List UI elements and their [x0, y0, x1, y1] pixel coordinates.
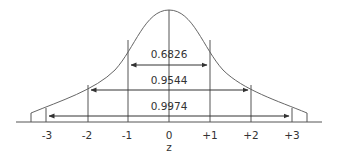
area-label-3sd: 0.9974: [151, 100, 188, 112]
axis-label-z: z: [166, 141, 172, 153]
area-label-2sd: 0.9544: [151, 74, 188, 86]
normal-curve-diagram: 0.6826 0.9544 0.9974 -3 -2 -1 0 +1 +2 +3…: [0, 0, 339, 159]
tick-label: -3: [42, 129, 52, 141]
tick-label: +2: [243, 129, 258, 141]
tick-label: +3: [284, 129, 299, 141]
tick-label: -2: [82, 129, 92, 141]
area-label-1sd: 0.6826: [151, 48, 188, 60]
tick-label: 0: [166, 129, 173, 141]
tick-label: +1: [202, 129, 217, 141]
tick-label: -1: [122, 129, 132, 141]
